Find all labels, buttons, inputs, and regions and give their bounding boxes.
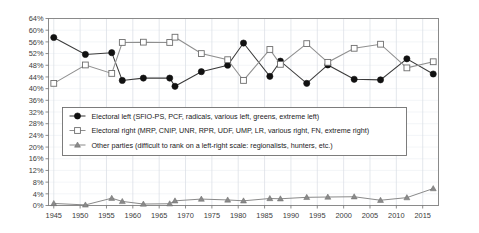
- data-point-electoral-left: [377, 77, 383, 83]
- legend-label-electoral-right: Electoral right (MRP, CNIP, UNR, RPR, UD…: [92, 126, 370, 135]
- y-axis-tick-label: 4%: [33, 190, 44, 199]
- y-axis-tick-label: 36%: [29, 96, 44, 105]
- x-axis-tick-label: 1960: [125, 211, 141, 220]
- data-point-electoral-right: [351, 45, 357, 51]
- y-axis-tick-label: 24%: [29, 131, 44, 140]
- data-point-electoral-right: [51, 80, 57, 86]
- legend-label-other-parties: Other parties (difficult to rank on a le…: [92, 141, 333, 150]
- legend-item-electoral-left[interactable]: Electoral left (SFIO-PS, PCF, radicals, …: [70, 112, 320, 121]
- data-point-electoral-left: [172, 83, 178, 89]
- data-point-electoral-right: [267, 47, 273, 53]
- x-axis-tick-label: 1945: [46, 211, 62, 220]
- x-axis-tick-label: 1995: [309, 211, 325, 220]
- data-point-electoral-left: [119, 77, 125, 83]
- y-axis-tick-labels: 0%4%8%12%16%20%24%28%32%36%40%44%48%52%5…: [29, 14, 44, 210]
- y-axis-tick-label: 16%: [29, 154, 44, 163]
- legend-item-other-parties[interactable]: Other parties (difficult to rank on a le…: [70, 141, 333, 150]
- y-axis-tick-label: 56%: [29, 38, 44, 47]
- legend-item-electoral-right[interactable]: Electoral right (MRP, CNIP, UNR, RPR, UD…: [70, 126, 370, 135]
- series-other-parties: [51, 186, 436, 208]
- y-axis-tick-label: 60%: [29, 26, 44, 35]
- data-point-electoral-right: [109, 71, 115, 77]
- y-axis-tick-label: 48%: [29, 61, 44, 70]
- y-axis-tick-label: 0%: [33, 201, 44, 210]
- chart-container: 0%4%8%12%16%20%24%28%32%36%40%44%48%52%5…: [0, 0, 479, 233]
- x-axis-tick-label: 1950: [72, 211, 88, 220]
- data-point-other-parties: [109, 195, 115, 200]
- y-axis-tick-label: 12%: [29, 166, 44, 175]
- x-axis-tick-label: 1980: [230, 211, 246, 220]
- data-point-electoral-right: [82, 62, 88, 68]
- data-point-electoral-right: [172, 34, 178, 40]
- data-point-electoral-left: [167, 75, 173, 81]
- x-axis-tick-label: 1975: [204, 211, 220, 220]
- data-point-electoral-left: [404, 56, 410, 62]
- data-point-electoral-left: [304, 80, 310, 86]
- data-point-electoral-left: [109, 50, 115, 56]
- chart-legend: Electoral left (SFIO-PS, PCF, radicals, …: [63, 108, 407, 156]
- x-axis-tick-label: 2005: [362, 211, 378, 220]
- legend-marker-electoral-left: [74, 113, 80, 119]
- x-axis-tick-label: 2000: [335, 211, 351, 220]
- data-point-electoral-left: [240, 40, 246, 46]
- line-chart: 0%4%8%12%16%20%24%28%32%36%40%44%48%52%5…: [0, 0, 479, 233]
- y-axis-tick-label: 32%: [29, 108, 44, 117]
- data-point-electoral-right: [119, 40, 125, 46]
- x-axis-tick-label: 1990: [283, 211, 299, 220]
- data-point-electoral-left: [351, 76, 357, 82]
- y-axis-tick-label: 20%: [29, 143, 44, 152]
- legend-label-electoral-left: Electoral left (SFIO-PS, PCF, radicals, …: [92, 112, 320, 121]
- data-point-electoral-right: [430, 59, 436, 65]
- data-point-other-parties: [430, 186, 436, 191]
- data-point-electoral-right: [325, 59, 331, 65]
- data-point-electoral-left: [82, 51, 88, 57]
- data-point-electoral-right: [304, 41, 310, 47]
- data-point-electoral-right: [140, 39, 146, 45]
- x-axis-tick-label: 2015: [414, 211, 430, 220]
- data-point-electoral-left: [267, 73, 273, 79]
- data-point-electoral-left: [198, 69, 204, 75]
- data-point-electoral-left: [51, 34, 57, 40]
- y-axis-tick-label: 40%: [29, 84, 44, 93]
- x-axis-tick-label: 1985: [256, 211, 272, 220]
- data-point-electoral-right: [277, 61, 283, 67]
- y-axis-tick-label: 8%: [33, 178, 44, 187]
- legend-marker-electoral-right: [75, 128, 81, 134]
- x-axis-tick-label: 1955: [98, 211, 114, 220]
- y-axis-tick-label: 64%: [29, 14, 44, 23]
- data-point-electoral-left: [140, 75, 146, 81]
- data-point-electoral-right: [198, 51, 204, 57]
- data-point-electoral-right: [241, 78, 247, 84]
- data-point-electoral-right: [404, 65, 410, 71]
- y-axis-tick-label: 52%: [29, 49, 44, 58]
- x-axis-tick-label: 1965: [151, 211, 167, 220]
- data-point-electoral-left: [430, 71, 436, 77]
- data-point-electoral-right: [378, 41, 384, 47]
- x-axis-tick-label: 2010: [388, 211, 404, 220]
- y-axis-tick-label: 28%: [29, 119, 44, 128]
- x-axis-tick-labels: 1945195019551960196519701975198019851990…: [46, 211, 431, 220]
- y-axis-tick-label: 44%: [29, 73, 44, 82]
- x-axis-tick-label: 1970: [177, 211, 193, 220]
- data-point-electoral-right: [225, 57, 231, 63]
